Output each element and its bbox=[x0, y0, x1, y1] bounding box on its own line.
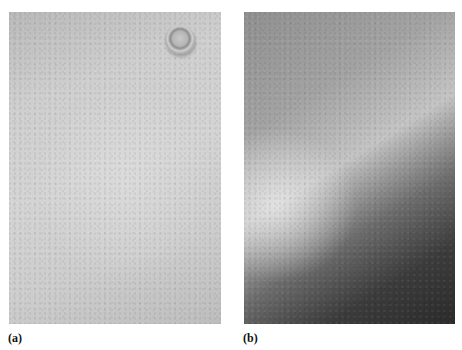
navel-feature bbox=[165, 26, 195, 54]
panel-b-label: (b) bbox=[243, 331, 258, 346]
figure-panel-b-image bbox=[244, 12, 455, 324]
skin-texture bbox=[9, 12, 221, 324]
panel-a-label: (a) bbox=[8, 331, 22, 346]
figure-panel-a-image bbox=[9, 12, 221, 324]
skin-texture bbox=[244, 12, 455, 324]
